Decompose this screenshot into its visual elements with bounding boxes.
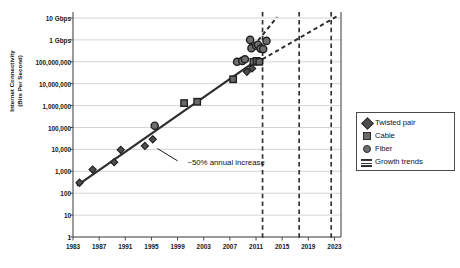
data-point-twisted-pair xyxy=(149,136,156,143)
data-point-fiber xyxy=(260,46,267,53)
data-point-fiber xyxy=(241,56,248,63)
data-point-fiber xyxy=(247,36,254,43)
x-axis-tick-label: 2011 xyxy=(249,243,263,250)
y-axis-tick-label: 1,000,000 xyxy=(1,102,71,109)
legend-item-growth-trends[interactable]: Growth trends xyxy=(361,155,451,168)
y-axis-tick-label: 10,000,000 xyxy=(1,80,71,87)
legend-item-cable[interactable]: Cable xyxy=(361,129,451,142)
x-axis-tick-label: 2023 xyxy=(327,243,341,250)
circle-marker-icon xyxy=(361,143,372,154)
y-axis-tick-label: 100,000,000 xyxy=(1,58,71,65)
y-axis-tick-label: 10,000 xyxy=(1,146,71,153)
chart-container: Internet Connectivity (Bits Per Second) … xyxy=(0,0,460,268)
y-axis-tick-label: 10 xyxy=(1,212,71,219)
x-axis-tick-label: 1983 xyxy=(66,243,80,250)
x-axis-tick-label: 1987 xyxy=(92,243,106,250)
y-axis-tick-labels: 1101001,00010,000100,0001,000,00010,000,… xyxy=(0,0,71,268)
legend-item-label: Cable xyxy=(375,131,395,140)
line-marker-icon xyxy=(361,156,372,167)
x-axis-tick-label: 1991 xyxy=(118,243,132,250)
diamond-marker-icon xyxy=(361,117,372,128)
legend-item-label: Fiber xyxy=(375,144,392,153)
legend-item-fiber[interactable]: Fiber xyxy=(361,142,451,155)
legend-item-label: Growth trends xyxy=(375,157,423,166)
data-point-fiber xyxy=(151,122,158,129)
chart-annotation: ~50% annual increase xyxy=(187,158,264,167)
legend-item-twisted-pair[interactable]: Twisted pair xyxy=(361,116,451,129)
y-axis-tick-label: 10 Gbps xyxy=(1,15,71,22)
y-axis-tick-label: 1 xyxy=(1,234,71,241)
data-point-cable xyxy=(230,76,236,82)
data-point-cable xyxy=(194,99,200,105)
x-axis-tick-label: 1995 xyxy=(144,243,158,250)
legend-item-label: Twisted pair xyxy=(375,118,416,127)
data-point-twisted-pair xyxy=(111,159,118,166)
y-axis-tick-label: 1 Gbps xyxy=(1,36,71,43)
data-point-twisted-pair xyxy=(141,142,148,149)
chart-legend: Twisted pairCableFiberGrowth trends xyxy=(356,112,455,171)
x-axis-tick-label: 2015 xyxy=(275,243,289,250)
x-axis-tick-label: 1999 xyxy=(170,243,184,250)
annotation-leader-line xyxy=(157,148,177,160)
y-axis-tick-label: 100 xyxy=(1,190,71,197)
y-axis-tick-label: 100,000 xyxy=(1,124,71,131)
data-point-cable xyxy=(256,59,262,65)
x-axis-tick-label: 2019 xyxy=(301,243,315,250)
x-axis-tick-label: 2007 xyxy=(223,243,237,250)
x-axis-tick-label: 2003 xyxy=(197,243,211,250)
data-point-fiber xyxy=(263,37,270,44)
y-axis-tick-label: 1,000 xyxy=(1,168,71,175)
data-point-cable xyxy=(181,100,187,106)
square-marker-icon xyxy=(361,130,372,141)
